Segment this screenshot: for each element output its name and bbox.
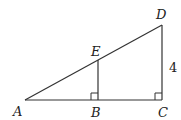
length-label-cd: 4: [169, 60, 177, 75]
label-a: A: [12, 104, 22, 119]
right-angle-marker-b: [91, 93, 98, 100]
label-e: E: [90, 44, 101, 59]
right-angle-marker-c: [155, 93, 162, 100]
label-b: B: [90, 105, 101, 120]
label-d: D: [155, 7, 167, 22]
label-c: C: [158, 105, 168, 120]
geometry-diagram: A B C D E 4: [0, 0, 181, 120]
segment-ad: [25, 25, 162, 100]
